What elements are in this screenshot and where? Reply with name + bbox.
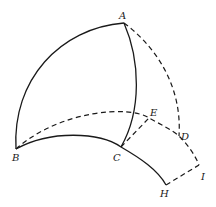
label-B: B [11, 152, 19, 163]
label-A: A [118, 10, 126, 21]
arc-AC [121, 23, 136, 147]
spherical-triangle-diagram: A B C D E H I [0, 0, 216, 207]
label-H: H [159, 188, 169, 199]
arc-HI [166, 165, 199, 185]
label-D: D [180, 131, 189, 142]
label-I: I [200, 171, 206, 182]
arc-CE [121, 118, 149, 147]
arc-AB [16, 23, 124, 149]
label-C: C [113, 152, 121, 163]
label-E: E [149, 107, 158, 118]
arc-BCH [16, 135, 166, 185]
